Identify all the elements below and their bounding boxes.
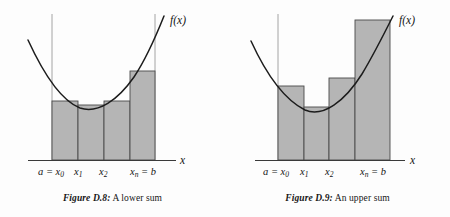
- rect-upper-4: [355, 20, 390, 160]
- figure-lower-sum: f(x) x a = x0 x1 x2 xn = b Figure D.8: A…: [0, 0, 225, 217]
- caption-text: An upper sum: [335, 193, 390, 203]
- rect-upper-1: [278, 86, 304, 160]
- caption-text: A lower sum: [112, 193, 162, 203]
- curve-label: f(x): [170, 14, 186, 27]
- x-axis-label: x: [409, 154, 416, 166]
- tick-label-xn-b: xn = b: [359, 166, 386, 179]
- caption-number: Figure D.9:: [285, 193, 333, 203]
- figure-sheet: f(x) x a = x0 x1 x2 xn = b Figure D.8: A…: [0, 0, 450, 217]
- tick-label-a-x0: a = x0: [38, 166, 64, 179]
- tick-label-xn-b: xn = b: [129, 166, 156, 179]
- caption-lower-sum: Figure D.8: A lower sum: [0, 192, 225, 205]
- curve-label: f(x): [399, 14, 415, 27]
- tick-label-x2: x2: [324, 166, 334, 179]
- tick-label-x2: x2: [98, 166, 108, 179]
- tick-label-x1: x1: [299, 166, 308, 179]
- rect-lower-2: [78, 105, 104, 160]
- rect-lower-1: [52, 101, 78, 160]
- plot-upper-sum: f(x) x a = x0 x1 x2 xn = b: [225, 0, 450, 190]
- plot-lower-sum: f(x) x a = x0 x1 x2 xn = b: [0, 0, 225, 190]
- caption-number: Figure D.8:: [63, 193, 111, 203]
- tick-label-a-x0: a = x0: [263, 166, 289, 179]
- rect-lower-4: [130, 71, 155, 160]
- tick-label-x1: x1: [73, 166, 82, 179]
- rect-upper-2: [304, 107, 329, 160]
- figure-upper-sum: f(x) x a = x0 x1 x2 xn = b Figure D.9: A…: [225, 0, 450, 217]
- caption-upper-sum: Figure D.9: An upper sum: [225, 192, 450, 205]
- x-axis-label: x: [179, 154, 186, 166]
- rect-lower-3: [104, 101, 130, 160]
